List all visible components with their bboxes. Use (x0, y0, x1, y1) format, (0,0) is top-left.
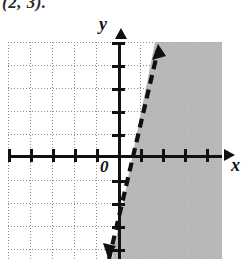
x-axis-tick (140, 149, 143, 162)
x-axis-tick (184, 149, 187, 162)
x-axis-tick (30, 149, 33, 162)
y-axis-label: y (99, 14, 107, 35)
boundary-arrow-top (152, 44, 166, 60)
y-axis-tick (112, 203, 125, 206)
x-axis-tick (8, 149, 11, 162)
y-axis-tick (112, 249, 125, 252)
y-axis-tick (112, 88, 125, 91)
y-axis-tick (112, 180, 125, 183)
x-axis (8, 155, 222, 158)
y-axis-tick (112, 65, 125, 68)
x-axis-tick (52, 149, 55, 162)
y-axis-arrow-icon (115, 28, 127, 39)
y-axis-tick (112, 134, 125, 137)
x-axis-tick (162, 149, 165, 162)
y-axis-tick (112, 226, 125, 229)
y-axis-tick (112, 42, 125, 45)
x-axis-tick (96, 149, 99, 162)
coordinate-plane: 0 (8, 42, 222, 259)
x-axis-label: x (231, 155, 240, 176)
caption-text: (2, 3). (2, 0, 47, 13)
x-axis-tick (74, 149, 77, 162)
y-axis-tick (112, 111, 125, 114)
x-axis-tick (206, 149, 209, 162)
origin-label: 0 (100, 157, 109, 177)
